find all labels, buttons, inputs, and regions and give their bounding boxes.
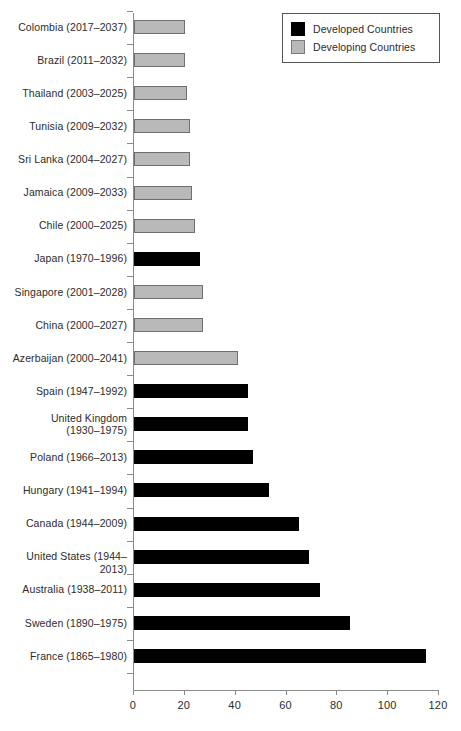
bar <box>134 616 350 630</box>
chart-legend: Developed Countries Developing Countries <box>282 13 440 63</box>
category-label-line: Japan (1970–1996) <box>1 252 127 265</box>
category-label: United Kingdom(1930–1975) <box>1 412 127 437</box>
category-label-line: Sweden (1890–1975) <box>1 617 127 630</box>
bar <box>134 517 299 531</box>
category-label: United States (1944–2013) <box>1 550 127 575</box>
bar <box>134 285 203 299</box>
y-axis-tick <box>127 309 133 310</box>
x-axis-tick-label: 40 <box>228 699 241 711</box>
legend-swatch-developing-icon <box>291 40 305 54</box>
category-label: Hungary (1941–1994) <box>1 484 127 497</box>
bar <box>134 384 248 398</box>
y-axis-tick <box>127 276 133 277</box>
y-axis-tick <box>127 474 133 475</box>
category-label: Poland (1966–2013) <box>1 451 127 464</box>
y-axis-tick <box>127 11 133 12</box>
y-axis-tick <box>127 574 133 575</box>
category-label-line: Sri Lanka (2004–2027) <box>1 153 127 166</box>
x-axis-tick <box>336 690 337 695</box>
category-label: Japan (1970–1996) <box>1 252 127 265</box>
y-axis-tick <box>127 210 133 211</box>
y-axis-tick <box>127 375 133 376</box>
x-axis-tick-label: 120 <box>429 699 448 711</box>
bar <box>134 86 187 100</box>
bar <box>134 152 190 166</box>
category-label-line: France (1865–1980) <box>1 650 127 663</box>
category-label: Sweden (1890–1975) <box>1 617 127 630</box>
category-label-line: Hungary (1941–1994) <box>1 484 127 497</box>
category-label-line: United States (1944–2013) <box>1 550 127 575</box>
y-axis-tick <box>127 508 133 509</box>
legend-entry-developing: Developing Countries <box>291 38 431 56</box>
category-label: Chile (2000–2025) <box>1 219 127 232</box>
y-axis-tick <box>127 177 133 178</box>
bar <box>134 417 248 431</box>
bar <box>134 483 269 497</box>
category-label-group: Colombia (2017–2037)Brazil (2011–2032)Th… <box>0 0 127 731</box>
bar <box>134 53 185 67</box>
legend-swatch-developed-icon <box>291 22 305 36</box>
bar <box>134 186 192 200</box>
y-axis-tick <box>127 541 133 542</box>
bar <box>134 351 238 365</box>
category-label: Jamaica (2009–2033) <box>1 186 127 199</box>
category-label-line: Colombia (2017–2037) <box>1 21 127 34</box>
y-axis-tick <box>127 110 133 111</box>
bar <box>134 583 320 597</box>
x-axis-tick <box>387 690 388 695</box>
bar <box>134 318 203 332</box>
y-axis-tick <box>127 342 133 343</box>
category-label: Canada (1944–2009) <box>1 517 127 530</box>
legend-label-developed: Developed Countries <box>313 23 413 35</box>
category-label-line: Singapore (2001–2028) <box>1 286 127 299</box>
x-axis-tick-label: 20 <box>178 699 191 711</box>
y-axis-tick <box>127 243 133 244</box>
category-label-line: (1930–1975) <box>1 424 127 437</box>
bar <box>134 450 253 464</box>
category-label: Australia (1938–2011) <box>1 583 127 596</box>
bar <box>134 119 190 133</box>
category-label-line: Canada (1944–2009) <box>1 517 127 530</box>
y-axis-tick <box>127 640 133 641</box>
category-label: Azerbaijan (2000–2041) <box>1 352 127 365</box>
bar <box>134 20 185 34</box>
category-label: Thailand (2003–2025) <box>1 87 127 100</box>
category-label: Singapore (2001–2028) <box>1 286 127 299</box>
category-label-line: Jamaica (2009–2033) <box>1 186 127 199</box>
bar <box>134 252 200 266</box>
category-label: Spain (1947–1992) <box>1 385 127 398</box>
bar-chart: Developed Countries Developing Countries… <box>0 0 461 731</box>
category-label-line: Thailand (2003–2025) <box>1 87 127 100</box>
bar <box>134 550 309 564</box>
category-label-line: Tunisia (2009–2032) <box>1 120 127 133</box>
x-axis-tick <box>235 690 236 695</box>
y-axis-tick <box>127 143 133 144</box>
y-axis-tick <box>127 408 133 409</box>
category-label-line: China (2000–2027) <box>1 319 127 332</box>
category-label-line: Azerbaijan (2000–2041) <box>1 352 127 365</box>
legend-label-developing: Developing Countries <box>313 41 415 53</box>
category-label-line: Brazil (2011–2032) <box>1 54 127 67</box>
x-axis-tick-label: 60 <box>279 699 292 711</box>
category-label: Colombia (2017–2037) <box>1 21 127 34</box>
x-axis-tick-label: 100 <box>378 699 397 711</box>
x-axis-tick <box>133 690 134 695</box>
x-axis-tick <box>184 690 185 695</box>
category-label: Sri Lanka (2004–2027) <box>1 153 127 166</box>
x-axis-tick-label: 80 <box>330 699 343 711</box>
x-axis-tick <box>286 690 287 695</box>
x-axis-tick <box>438 690 439 695</box>
category-label: Tunisia (2009–2032) <box>1 120 127 133</box>
category-label-line: Spain (1947–1992) <box>1 385 127 398</box>
legend-entry-developed: Developed Countries <box>291 20 431 38</box>
category-label: China (2000–2027) <box>1 319 127 332</box>
bar <box>134 649 426 663</box>
y-axis-tick <box>127 607 133 608</box>
bar <box>134 219 195 233</box>
category-label-line: Poland (1966–2013) <box>1 451 127 464</box>
y-axis-tick <box>127 77 133 78</box>
y-axis-tick <box>127 673 133 674</box>
y-axis-tick <box>127 44 133 45</box>
category-label-line: Chile (2000–2025) <box>1 219 127 232</box>
category-label: France (1865–1980) <box>1 650 127 663</box>
